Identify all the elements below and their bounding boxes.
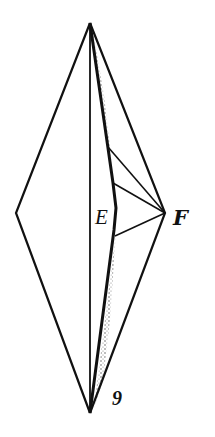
shaded-region-bottom xyxy=(94,232,116,408)
outer-left-edge xyxy=(16,23,90,413)
folding-diagram: E F 9 xyxy=(0,0,215,437)
point-label-e: E xyxy=(95,205,108,230)
point-label-f: F xyxy=(173,205,188,230)
fold-line-middle-to-f xyxy=(113,183,165,213)
figure-number-label: 9 xyxy=(112,387,122,410)
shaded-region-top xyxy=(92,26,112,165)
